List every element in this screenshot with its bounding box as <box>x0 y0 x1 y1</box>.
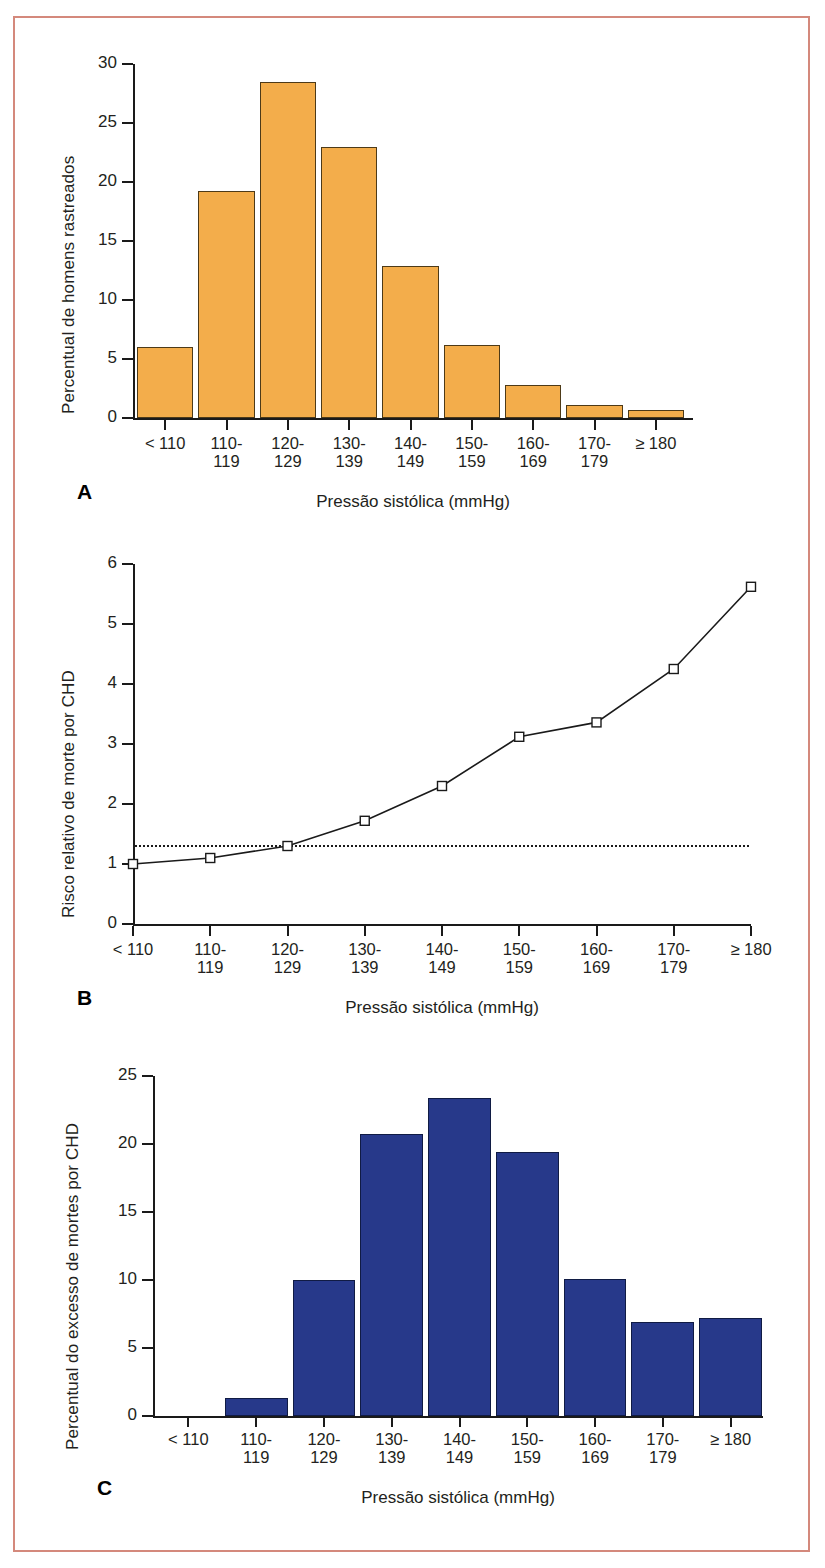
x-axis-title-a: Pressão sistólica (mmHg) <box>133 492 693 512</box>
x-cat-label-b: 170- 179 <box>630 940 718 977</box>
y-tick-label-c: 20 <box>101 1134 137 1151</box>
y-tick-label-a: 15 <box>81 231 117 248</box>
x-axis-line-a <box>133 418 693 420</box>
data-point-marker: 120-129: 1.3 <box>283 842 292 851</box>
x-cat-label-b: < 110 <box>89 940 177 958</box>
x-tick-c <box>730 1418 732 1427</box>
bar <box>699 1318 762 1416</box>
y-tick-c <box>142 1143 153 1145</box>
panel-c: 0510152025< 110110- 119120- 129130- 1391… <box>15 1028 812 1548</box>
x-tick-c <box>391 1418 393 1427</box>
x-cat-label-b: 130- 139 <box>321 940 409 977</box>
y-axis-line-c <box>153 1076 155 1417</box>
bar <box>566 405 622 418</box>
x-tick-b <box>596 926 598 936</box>
data-point-marker: 170-179: 4.25 <box>669 665 678 674</box>
x-cat-label-b: ≥ 180 <box>707 940 795 958</box>
y-axis-title-b: Risco relativo de morte por CHD <box>59 670 79 918</box>
y-tick-label-a: 5 <box>81 349 117 366</box>
x-tick-a <box>164 420 166 430</box>
x-cat-label-b: 120- 129 <box>244 940 332 977</box>
panel-b: 0123456< 110: 1110-119: 1.1120-129: 1.31… <box>15 518 812 1028</box>
bar <box>428 1098 491 1416</box>
bar <box>628 410 684 418</box>
bar <box>293 1280 356 1416</box>
y-axis-line-a <box>133 64 135 419</box>
y-tick-c <box>142 1279 153 1281</box>
data-point-marker: 150-159: 3.12 <box>515 732 524 741</box>
data-point-marker: 110-119: 1.1 <box>206 854 215 863</box>
x-axis-title-b: Pressão sistólica (mmHg) <box>133 998 751 1018</box>
y-tick-c <box>142 1347 153 1349</box>
bar <box>631 1322 694 1416</box>
bar <box>505 385 561 418</box>
y-tick-a <box>122 299 133 301</box>
y-tick-label-c: 25 <box>101 1066 137 1083</box>
bar <box>444 345 500 418</box>
bar <box>564 1279 627 1416</box>
y-tick-a <box>122 181 133 183</box>
panel-letter-c: C <box>97 1476 112 1500</box>
panel-a: 051015202530< 110110- 119120- 129130- 13… <box>15 18 812 508</box>
x-axis-title-c: Pressão sistólica (mmHg) <box>153 1488 763 1508</box>
x-tick-a <box>287 420 289 430</box>
panel-letter-a: A <box>77 480 92 504</box>
x-tick-c <box>662 1418 664 1427</box>
x-cat-label-c: ≥ 180 <box>689 1430 773 1448</box>
y-tick-label-c: 0 <box>101 1406 137 1423</box>
y-tick-a <box>122 417 133 419</box>
bar <box>260 82 316 418</box>
bar <box>382 266 438 418</box>
y-tick-a <box>122 63 133 65</box>
x-cat-label-b: 150- 159 <box>475 940 563 977</box>
x-tick-b <box>673 926 675 936</box>
x-tick-b <box>209 926 211 936</box>
y-tick-c <box>142 1211 153 1213</box>
y-axis-title-c: Percentual do excesso de mortes por CHD <box>63 1123 83 1450</box>
y-tick-label-c: 10 <box>101 1270 137 1287</box>
x-tick-c <box>594 1418 596 1427</box>
y-axis-title-a: Percentual de homens rastreados <box>59 156 79 414</box>
panel-letter-b: B <box>77 986 92 1010</box>
bar <box>198 191 254 418</box>
x-tick-b <box>750 926 752 936</box>
bar <box>360 1134 423 1416</box>
bar <box>225 1398 288 1416</box>
x-tick-b <box>364 926 366 936</box>
x-tick-c <box>526 1418 528 1427</box>
y-tick-label-c: 5 <box>101 1338 137 1355</box>
y-tick-label-c: 15 <box>101 1202 137 1219</box>
x-tick-b <box>132 926 134 936</box>
data-point-marker: 160-169: 3.36 <box>592 718 601 727</box>
data-point-marker: ≥ 180: 5.62 <box>747 582 756 591</box>
figure-frame: 051015202530< 110110- 119120- 129130- 13… <box>13 16 810 1552</box>
x-tick-a <box>410 420 412 430</box>
x-tick-a <box>348 420 350 430</box>
x-tick-a <box>655 420 657 430</box>
y-tick-c <box>142 1075 153 1077</box>
x-tick-a <box>226 420 228 430</box>
x-cat-label-b: 110- 119 <box>166 940 254 977</box>
y-tick-label-a: 10 <box>81 290 117 307</box>
bar <box>496 1152 559 1416</box>
y-tick-a <box>122 122 133 124</box>
x-tick-c <box>459 1418 461 1427</box>
x-cat-label-b: 140- 149 <box>398 940 486 977</box>
y-tick-a <box>122 358 133 360</box>
y-tick-a <box>122 240 133 242</box>
x-tick-c <box>187 1418 189 1427</box>
bar <box>321 147 377 418</box>
y-tick-label-a: 25 <box>81 113 117 130</box>
x-tick-c <box>323 1418 325 1427</box>
x-tick-b <box>287 926 289 936</box>
y-tick-c <box>142 1415 153 1417</box>
x-tick-b <box>518 926 520 936</box>
y-tick-label-a: 30 <box>81 54 117 71</box>
bar <box>137 347 193 418</box>
data-point-marker: 140-149: 2.3 <box>438 782 447 791</box>
x-tick-c <box>255 1418 257 1427</box>
x-tick-b <box>441 926 443 936</box>
x-cat-label-a: ≥ 180 <box>614 434 698 452</box>
y-tick-label-a: 20 <box>81 172 117 189</box>
x-tick-a <box>471 420 473 430</box>
